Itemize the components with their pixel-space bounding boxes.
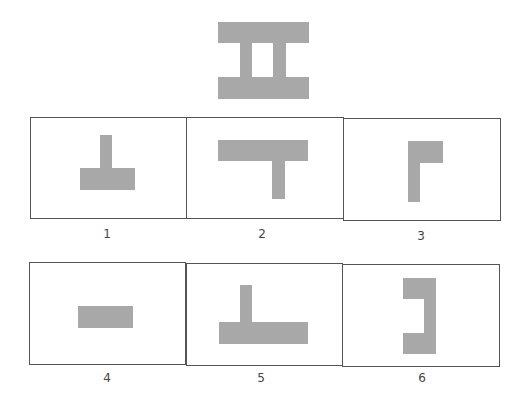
- puzzle-figure: 123456: [0, 0, 525, 404]
- target-shape-segment: [240, 43, 252, 77]
- option-1-shape-segment: [80, 168, 135, 190]
- option-label-6: 6: [412, 371, 432, 385]
- option-label-1: 1: [97, 227, 117, 241]
- option-label-3: 3: [411, 229, 431, 243]
- option-label-4: 4: [97, 371, 117, 385]
- option-4-shape-segment: [78, 306, 133, 328]
- option-5-shape-segment: [219, 322, 308, 344]
- option-1-shape-segment: [100, 135, 112, 168]
- option-6-shape-segment: [403, 333, 436, 354]
- option-2-shape-segment: [218, 140, 308, 161]
- option-box-5[interactable]: [186, 263, 343, 366]
- option-box-3[interactable]: [343, 118, 501, 221]
- target-shape-segment: [273, 43, 286, 77]
- option-label-5: 5: [251, 371, 271, 385]
- option-5-shape-segment: [240, 285, 252, 322]
- option-6-shape-segment: [424, 299, 436, 333]
- option-3-shape-segment: [420, 141, 443, 163]
- option-2-shape-segment: [272, 161, 285, 199]
- option-6-shape-segment: [403, 278, 436, 299]
- target-shape-segment: [218, 77, 309, 99]
- option-box-2[interactable]: [186, 117, 344, 219]
- target-shape-segment: [218, 22, 309, 43]
- option-label-2: 2: [252, 227, 272, 241]
- option-3-shape-segment: [408, 141, 420, 202]
